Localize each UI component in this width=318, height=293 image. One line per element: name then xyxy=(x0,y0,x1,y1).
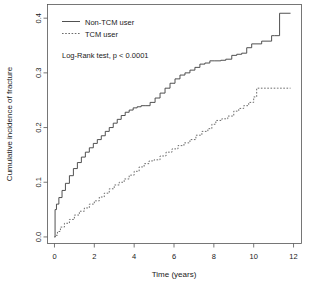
x-axis-tick-labels: 024681012 xyxy=(52,252,297,261)
chart-legend: Non-TCM user TCM user xyxy=(62,18,135,39)
y-axis-tick-labels: 0.00.10.20.30.4 xyxy=(34,13,43,242)
x-tick-label-12: 12 xyxy=(289,252,297,261)
x-axis-title: Time (years) xyxy=(152,270,197,279)
chart-canvas: 024681012 0.00.10.20.30.4 Time (years) C… xyxy=(0,0,318,293)
x-tick-label-8: 8 xyxy=(212,252,216,261)
x-tick-label-10: 10 xyxy=(250,252,258,261)
x-tick-label-6: 6 xyxy=(172,252,176,261)
plot-frame xyxy=(48,5,302,244)
survival-chart-figure: 024681012 0.00.10.20.30.4 Time (years) C… xyxy=(0,0,318,293)
y-tick-label-0.0: 0.0 xyxy=(34,232,43,242)
y-tick-label-0.3: 0.3 xyxy=(34,68,43,78)
y-tick-label-0.4: 0.4 xyxy=(34,13,43,23)
legend-label-tcm-user: TCM user xyxy=(85,30,118,39)
legend-label-non-tcm-user: Non-TCM user xyxy=(85,18,135,27)
logrank-annotation: Log-Rank test, p < 0.0001 xyxy=(62,51,149,60)
x-axis-ticks xyxy=(54,244,293,248)
y-axis-ticks xyxy=(44,18,48,237)
y-tick-label-0.1: 0.1 xyxy=(34,177,43,187)
series-line-tcm-user xyxy=(54,88,290,237)
x-tick-label-2: 2 xyxy=(92,252,96,261)
series-line-non-tcm-user xyxy=(54,13,290,237)
x-tick-label-4: 4 xyxy=(132,252,136,261)
y-tick-label-0.2: 0.2 xyxy=(34,122,43,132)
y-axis-title: Cumulative incidence of fracture xyxy=(5,66,14,181)
x-tick-label-0: 0 xyxy=(52,252,56,261)
